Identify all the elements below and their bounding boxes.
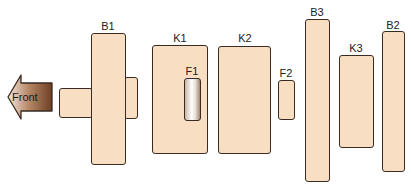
k2-label: K2 — [225, 32, 265, 44]
b1-left-tab — [59, 88, 93, 118]
fuse-f2 — [278, 80, 295, 120]
block-b2 — [382, 31, 405, 172]
k3-label: K3 — [336, 42, 376, 54]
k1-label: K1 — [160, 32, 200, 44]
block-b3 — [305, 19, 330, 182]
fuse-f1 — [184, 78, 201, 121]
f2-label: F2 — [266, 67, 306, 79]
block-b1 — [91, 33, 126, 165]
f1-label: F1 — [172, 65, 212, 77]
b1-label: B1 — [88, 20, 128, 32]
relay-k2 — [218, 46, 271, 154]
front-label: Front — [12, 91, 38, 103]
b2-label: B2 — [373, 19, 411, 31]
b3-label: B3 — [297, 6, 337, 18]
relay-k3 — [339, 55, 374, 148]
b1-right-tab — [124, 77, 138, 119]
